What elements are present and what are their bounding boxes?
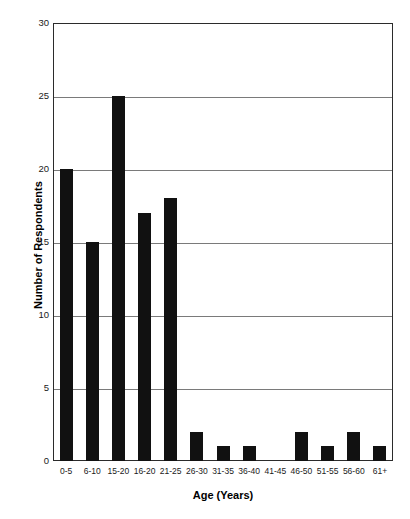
x-axis-title: Age (Years)	[53, 489, 393, 501]
gridline	[54, 97, 392, 98]
y-axis-tick-label: 20	[3, 164, 49, 174]
gridline	[54, 316, 392, 317]
y-axis-tick-label: 15	[3, 237, 49, 247]
y-axis-tick-label: 5	[3, 383, 49, 393]
y-axis-tick-label: 10	[3, 310, 49, 320]
gridline	[54, 170, 392, 171]
bar-chart: Number of Respondents 051015202530 0-56-…	[0, 0, 410, 519]
x-axis-tick-labels: 0-56-1015-2016-2021-2526-3031-3536-4041-…	[53, 466, 393, 482]
y-axis-tick-label: 0	[3, 456, 49, 466]
gridline	[54, 389, 392, 390]
plot-area	[53, 23, 393, 461]
y-axis-tick-label: 25	[3, 91, 49, 101]
y-axis-tick-label: 30	[3, 18, 49, 28]
x-axis-tick-label: 61+	[358, 466, 402, 477]
y-axis-tick-labels: 051015202530	[0, 23, 49, 461]
gridline	[54, 243, 392, 244]
